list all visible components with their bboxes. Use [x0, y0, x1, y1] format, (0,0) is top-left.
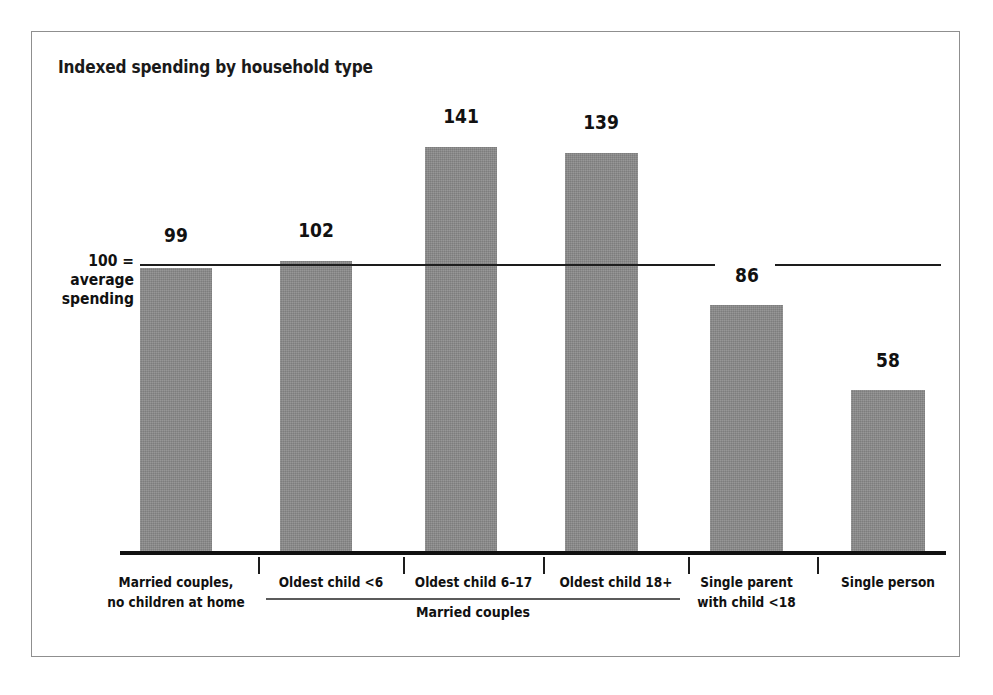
bar-married-no-children: [140, 268, 212, 553]
category-label-line: Married couples,: [104, 572, 248, 592]
group-bracket-line: [266, 598, 680, 600]
bar-single-parent: [710, 305, 783, 553]
reference-axis-label: 100 = average spending: [57, 252, 134, 309]
reference-line-segment: [140, 264, 715, 266]
bar-oldest-child-under-6: [280, 261, 352, 553]
category-label-line: Oldest child 6–17: [395, 572, 553, 592]
bar-value-label: 141: [434, 105, 488, 127]
category-label-single-parent: Single parent with child <18: [677, 572, 817, 612]
bar-oldest-child-18-plus: [565, 153, 638, 553]
category-label-oldest-child-under-6: Oldest child <6: [255, 572, 408, 592]
bar-value-label: 86: [720, 264, 774, 286]
bar-value-label: 139: [574, 111, 628, 133]
reference-axis-label-line1: 100 =: [57, 252, 134, 271]
reference-axis-label-line2: average: [57, 271, 134, 290]
bar-value-label: 99: [149, 224, 203, 246]
category-label-line: Single parent: [677, 572, 817, 592]
x-axis-baseline: [120, 551, 946, 555]
category-label-line: Oldest child 18+: [540, 572, 693, 592]
category-label-married-no-children: Married couples, no children at home: [104, 572, 248, 612]
category-label-oldest-child-18-plus: Oldest child 18+: [540, 572, 693, 592]
plot-area: 99 102 141 139 86 58 100 = average spend…: [0, 0, 993, 695]
category-label-oldest-child-6-17: Oldest child 6–17: [395, 572, 553, 592]
bar-oldest-child-6-17: [425, 147, 497, 553]
category-label-line: with child <18: [677, 592, 817, 612]
chart-figure: Indexed spending by household type 99 10…: [0, 0, 993, 695]
group-bracket-label: Married couples: [287, 604, 660, 620]
bar-single-person: [851, 390, 925, 553]
category-label-line: no children at home: [104, 592, 248, 612]
bar-value-label: 102: [289, 219, 343, 241]
bar-value-label: 58: [861, 349, 915, 371]
reference-line-segment: [775, 264, 941, 266]
category-label-line: Oldest child <6: [255, 572, 408, 592]
category-label-line: Single person: [820, 572, 957, 592]
reference-axis-label-line3: spending: [57, 290, 134, 309]
category-label-single-person: Single person: [820, 572, 957, 592]
